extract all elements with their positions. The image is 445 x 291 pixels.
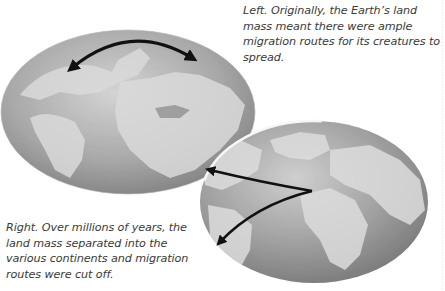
caption-left: Left. Originally, the Earth’s land mass … (243, 3, 443, 65)
modern-earth-globe (200, 121, 428, 283)
caption-right: Right. Over millions of years, the land … (6, 220, 196, 282)
